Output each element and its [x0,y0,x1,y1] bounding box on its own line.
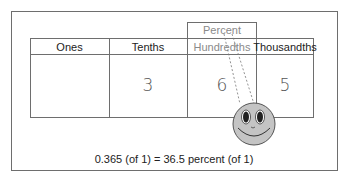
equation-caption: 0.365 (of 1) = 36.5 percent (of 1) [0,153,348,165]
